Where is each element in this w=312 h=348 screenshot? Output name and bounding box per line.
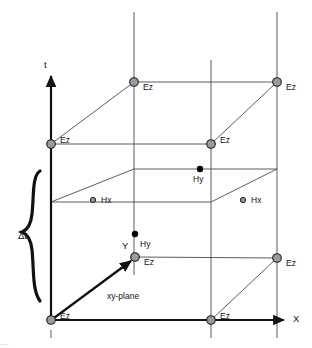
lattice-node-ez-mid-back-left [131,253,140,262]
label-hx-1: Hx [101,196,111,205]
yee-lattice-svg [0,0,312,348]
lattice-node-hy-lower [132,231,138,237]
label-xy-plane: xy-plane [107,292,139,301]
label-hy-1: Hy [193,175,203,184]
label-ez-4: Ez [220,136,230,145]
lattice-node-hx-right [240,197,245,202]
label-dt: Δt [18,231,27,241]
caption-remnant: — [0,339,312,348]
label-ez-3: Ez [60,136,70,145]
lattice-node-ez-top-left [130,78,139,87]
label-hy-2: Hy [140,240,150,249]
label-ez-6: Ez [286,259,296,268]
label-ez-8: Ez [220,312,230,321]
lattice-node-hx-left [90,197,95,202]
label-y: Y [122,241,128,251]
label-hx-2: Hx [251,196,261,205]
label-t: t [44,60,47,70]
lattice-node-ez-mid-back-right [273,254,282,263]
label-x: X [293,314,299,324]
axes [51,76,284,320]
lattice-node-ez-upper-front-left [47,140,56,149]
y-axis [54,261,131,318]
lattice-node-hy-upper [197,166,203,172]
edge-mid-right-depth [211,169,277,202]
label-ez-5: Ez [144,258,154,267]
edge-low-back [135,257,277,258]
figure-canvas: tXYΔtxy-planeEzEzEzEzEzEzEzEzHxHxHyHy — [0,0,312,348]
lattice-node-ez-origin [47,316,56,325]
lattice-node-ez-top-right [273,78,282,87]
lattice-guide-lines [51,12,277,338]
label-ez-1: Ez [143,83,153,92]
label-ez-7: Ez [60,312,70,321]
lattice-node-ez-bottom-right [207,316,216,325]
lattice-node-ez-upper-front-right [207,140,216,149]
label-ez-2: Ez [286,83,296,92]
